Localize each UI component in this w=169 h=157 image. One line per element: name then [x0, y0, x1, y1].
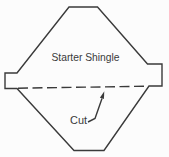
- diagram-canvas: Starter Shingle Cut: [0, 0, 169, 157]
- cut-leader-line: [88, 99, 102, 123]
- shingle-outline: [5, 7, 162, 151]
- cut-label: Cut: [70, 114, 88, 126]
- cut-line: [18, 86, 148, 88]
- starter-shingle-diagram: Starter Shingle Cut: [0, 0, 169, 157]
- cut-leader-arrowhead-icon: [100, 91, 104, 99]
- shingle-label: Starter Shingle: [52, 51, 120, 63]
